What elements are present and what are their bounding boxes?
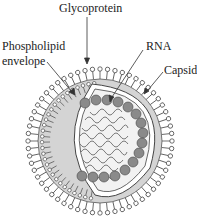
label-glycoprotein: Glycoprotein [59, 2, 122, 15]
virus-illustration [0, 0, 197, 222]
label-phospholipid: Phospholipid [2, 40, 65, 53]
label-envelope: envelope [2, 55, 45, 68]
label-capsid: Capsid [164, 64, 197, 77]
label-rna: RNA [146, 40, 171, 53]
